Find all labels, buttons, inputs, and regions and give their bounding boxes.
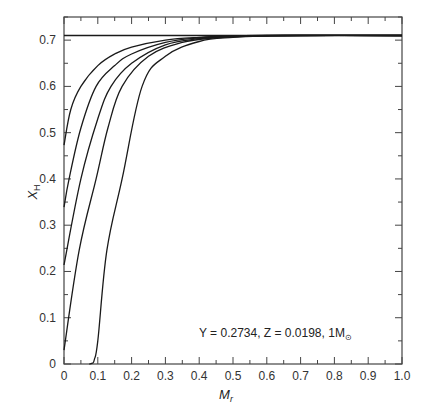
x-tick-label: 0.5	[225, 369, 242, 383]
parameter-annotation: Y = 0.2734, Z = 0.0198, 1M⊙	[199, 326, 352, 342]
x-tick-label: 0.2	[123, 369, 140, 383]
y-tick-label: 0.4	[39, 172, 56, 186]
axis-ticks	[64, 17, 402, 364]
x-tick-label: 1.0	[394, 369, 411, 383]
x-tick-label: 0.8	[326, 369, 343, 383]
series-line-curve-1	[64, 35, 402, 145]
x-tick-label: 0.7	[292, 369, 309, 383]
x-axis-label: Mr	[219, 387, 234, 404]
x-tick-label: 0.6	[258, 369, 275, 383]
series-line-curve-3	[64, 35, 402, 265]
plot-frame	[64, 17, 402, 364]
y-tick-label: 0.3	[39, 218, 56, 232]
y-axis-label: XH	[25, 184, 42, 200]
x-tick-label: 0.3	[157, 369, 174, 383]
data-curves	[64, 35, 402, 364]
y-tick-label: 0.6	[39, 79, 56, 93]
chart-canvas: 00.10.20.30.40.50.60.70.80.91.000.10.20.…	[0, 0, 428, 416]
y-tick-label: 0	[49, 357, 56, 371]
series-line-curve-5	[89, 35, 402, 364]
x-tick-label: 0.1	[89, 369, 106, 383]
y-tick-label: 0.1	[39, 311, 56, 325]
y-tick-label: 0.7	[39, 33, 56, 47]
series-line-curve-4	[64, 35, 402, 350]
x-tick-label: 0	[61, 369, 68, 383]
series-line-curve-2	[64, 35, 402, 207]
x-tick-label: 0.4	[191, 369, 208, 383]
x-tick-label: 0.9	[360, 369, 377, 383]
plot-border	[64, 17, 402, 364]
y-tick-label: 0.2	[39, 264, 56, 278]
y-tick-label: 0.5	[39, 126, 56, 140]
